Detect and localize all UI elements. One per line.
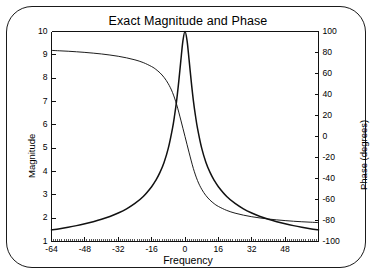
series-line-phase xyxy=(52,50,319,222)
series-line-magnitude xyxy=(52,32,319,230)
plot-canvas xyxy=(0,0,376,278)
